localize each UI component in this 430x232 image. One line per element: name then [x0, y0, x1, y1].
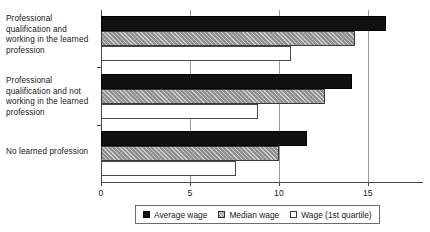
- x-axis-line: [101, 182, 423, 183]
- y-tick-2: [97, 125, 101, 126]
- bar-wage-1st-quartile-group-2: [101, 161, 236, 176]
- bar-average-wage-group-0: [101, 16, 386, 31]
- bar-chart: Professional qualification and working i…: [0, 0, 430, 232]
- x-tick-0: [101, 182, 102, 186]
- x-tick-15: [368, 182, 369, 186]
- bar-wage-1st-quartile-group-0: [101, 46, 291, 61]
- category-label-1: Professional qualification and not worki…: [6, 76, 98, 118]
- x-tick-10: [279, 182, 280, 186]
- legend-item-wage-first-quartile: Wage (1st quartile): [290, 210, 371, 220]
- legend-label-median-wage: Median wage: [229, 210, 279, 220]
- category-label-2: No learned profession: [6, 147, 98, 158]
- y-tick-1: [97, 67, 101, 68]
- bar-wage-1st-quartile-group-1: [101, 104, 258, 119]
- legend-swatch-average-wage: [143, 211, 150, 218]
- bar-average-wage-group-1: [101, 74, 352, 89]
- bar-average-wage-group-2: [101, 131, 307, 146]
- legend-item-average-wage: Average wage: [143, 210, 207, 220]
- legend-item-median-wage: Median wage: [218, 210, 279, 220]
- bar-median-wage-group-0: [101, 31, 355, 46]
- bar-median-wage-group-1: [101, 89, 325, 104]
- x-tick-label-5: 5: [188, 188, 193, 198]
- x-tick-label-0: 0: [99, 188, 104, 198]
- gridline-15: [368, 10, 369, 182]
- category-label-0: Professional qualification and working i…: [6, 14, 98, 56]
- plot-area: 051015: [101, 10, 423, 182]
- x-tick-label-15: 15: [363, 188, 373, 198]
- x-tick-5: [190, 182, 191, 186]
- legend-swatch-wage-first-quartile: [290, 211, 297, 218]
- legend-label-wage-first-quartile: Wage (1st quartile): [301, 210, 371, 220]
- chart-legend: Average wage Median wage Wage (1st quart…: [135, 205, 380, 224]
- x-tick-label-10: 10: [274, 188, 284, 198]
- bar-median-wage-group-2: [101, 146, 279, 161]
- category-axis-labels: Professional qualification and working i…: [6, 0, 98, 186]
- legend-swatch-median-wage: [218, 211, 225, 218]
- legend-label-average-wage: Average wage: [154, 210, 207, 220]
